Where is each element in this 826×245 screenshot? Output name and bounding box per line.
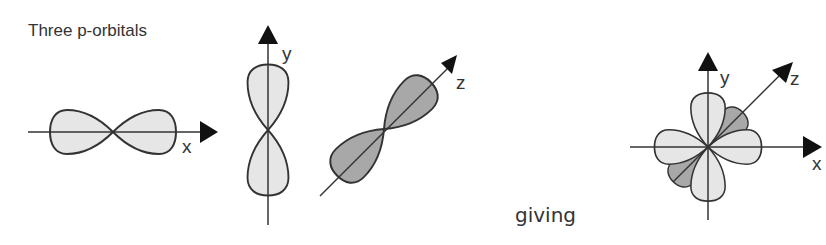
combined-x-label: x: [812, 153, 822, 174]
combined-y-arrow-icon: [698, 52, 718, 71]
combined-y-label: y: [720, 67, 730, 88]
py-orbital: y: [248, 25, 292, 225]
orbital-diagram: x y z: [0, 0, 826, 245]
z-arrow-icon: [441, 55, 457, 74]
py-axis-label: y: [282, 43, 292, 64]
y-arrow-icon: [258, 25, 278, 44]
pz-orbital: z: [320, 55, 466, 196]
combined-z-label: z: [790, 68, 800, 89]
z-axis-line: [320, 66, 450, 196]
combined-z-axis-line: [673, 72, 783, 182]
combined-orbitals: y z x: [630, 52, 822, 220]
px-orbital: x: [28, 110, 218, 157]
pz-axis-label: z: [456, 72, 466, 93]
px-axis-label: x: [182, 136, 192, 157]
x-arrow-icon: [200, 121, 218, 143]
